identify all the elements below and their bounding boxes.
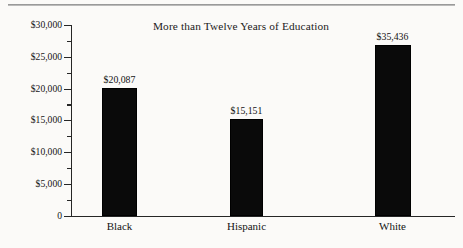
x-axis-label-black: Black: [79, 220, 160, 233]
bar-value-hispanic: $15,151: [206, 105, 287, 116]
y-axis-label-25000: $25,000: [4, 52, 62, 62]
y-axis-label-20000: $20,000: [4, 84, 62, 94]
y-axis-labels: $30,000 $25,000 $20,000 $15,000 $10,000 …: [0, 0, 62, 248]
y-axis-label-15000: $15,000: [4, 115, 62, 125]
y-axis-label-0: 0: [4, 211, 62, 221]
bar-white: [375, 45, 411, 216]
x-axis-line: [71, 216, 455, 217]
y-axis-tick-5000: [64, 184, 72, 185]
y-axis-minor-tick-27500: [67, 41, 73, 42]
bar-value-black: $20,087: [79, 74, 160, 85]
y-axis-label-30000: $30,000: [4, 20, 62, 30]
bar-value-white: $35,436: [352, 31, 433, 42]
y-axis-tick-0: [64, 216, 72, 217]
page-divider-rule: [8, 4, 455, 6]
y-axis-label-5000: $5,000: [4, 179, 62, 189]
y-axis-tick-20000: [64, 89, 72, 90]
bar-chart-figure: More than Twelve Years of Education $30,…: [0, 0, 463, 248]
y-axis-minor-tick-2500: [67, 200, 73, 201]
y-axis-minor-tick-17500: [67, 104, 73, 105]
y-axis-label-10000: $10,000: [4, 147, 62, 157]
y-axis-tick-25000: [64, 57, 72, 58]
bar-hispanic: [230, 119, 263, 215]
y-axis-tick-15000: [64, 120, 72, 121]
y-axis-tick-30000: [64, 25, 72, 26]
y-axis-minor-tick-7500: [67, 168, 73, 169]
y-axis-minor-tick-22500: [67, 73, 73, 74]
x-axis-label-white: White: [352, 220, 433, 233]
x-axis-label-hispanic: Hispanic: [206, 220, 287, 233]
y-axis-minor-tick-12500: [67, 136, 73, 137]
bar-black: [102, 88, 137, 216]
y-axis-tick-10000: [64, 152, 72, 153]
